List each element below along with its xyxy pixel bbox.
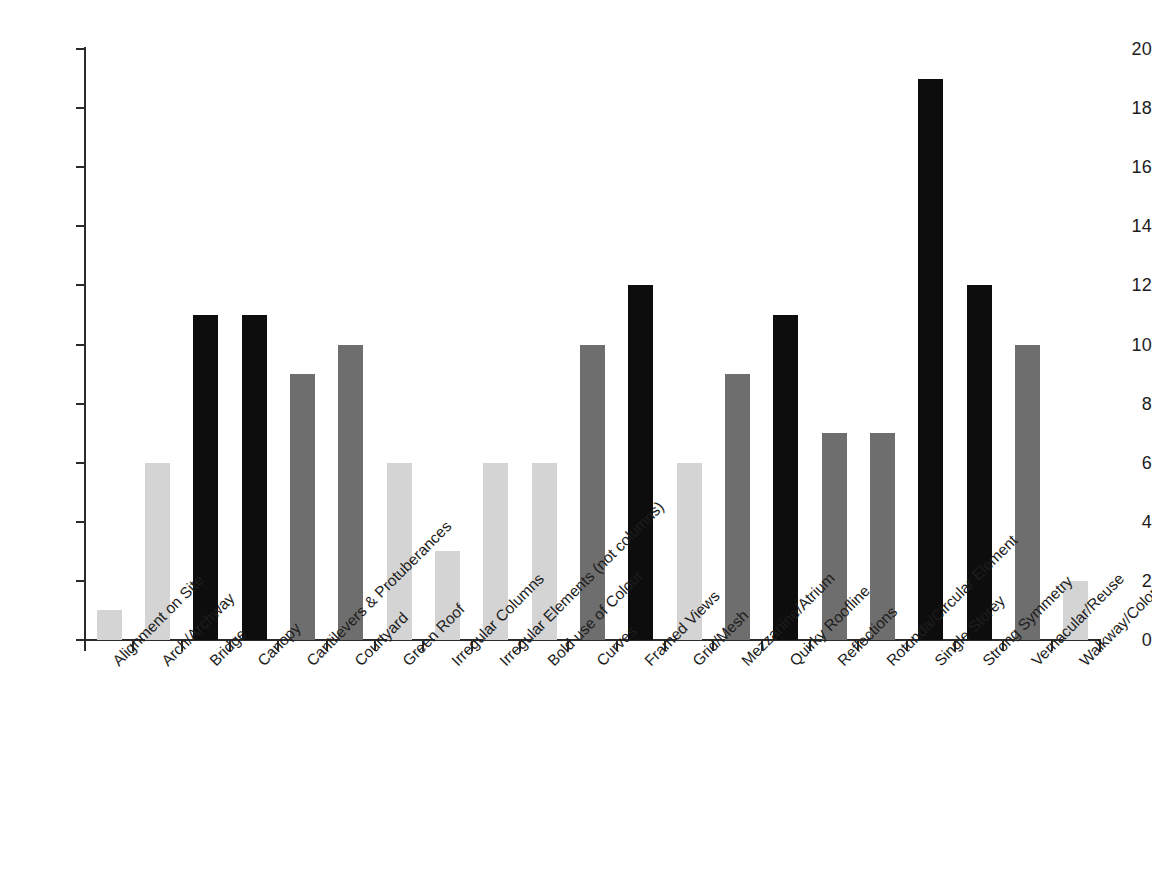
x-axis-label: Arch/Archway	[158, 657, 170, 669]
bar	[918, 79, 943, 640]
y-axis-tick	[76, 344, 85, 346]
bar	[1015, 345, 1040, 641]
bar	[338, 345, 363, 641]
x-axis-label: Grid/Mesh	[689, 657, 701, 669]
x-axis-tick	[84, 641, 86, 651]
x-axis-label: Irregular Elements (not columns)	[496, 657, 508, 669]
x-axis-label: Courtyard	[351, 657, 363, 669]
bar	[97, 610, 122, 640]
x-axis-label: Canopy	[254, 657, 266, 669]
x-axis-label: Bold use of Colour	[544, 657, 556, 669]
y-axis-tick	[76, 580, 85, 582]
x-axis-label: Curves	[593, 657, 605, 669]
bar-chart: 02468101214161820 Alignment on SiteArch/…	[0, 0, 1152, 877]
y-axis-tick	[76, 462, 85, 464]
x-axis-label: Single Storey	[931, 657, 943, 669]
x-axis-label: Rotunda/Circular Element	[883, 657, 895, 669]
bar	[773, 315, 798, 640]
bar	[580, 345, 605, 641]
x-axis-label: Mezzanine/Atrium	[738, 657, 750, 669]
y-axis-tick	[76, 166, 85, 168]
x-axis-label: Quirky Roofline	[786, 657, 798, 669]
x-axis-label: Vernacular/Reuse	[1028, 657, 1040, 669]
bar	[725, 374, 750, 640]
bar	[242, 315, 267, 640]
x-axis-label: Framed Views	[641, 657, 653, 669]
y-axis-tick	[76, 107, 85, 109]
y-axis-tick	[76, 225, 85, 227]
y-axis-tick	[76, 403, 85, 405]
y-axis-tick	[76, 521, 85, 523]
x-axis-label: Green Roof	[399, 657, 411, 669]
x-axis-label: Reflections	[834, 657, 846, 669]
y-axis-tick	[76, 48, 85, 50]
bar	[290, 374, 315, 640]
x-axis-label: Strong Symmetry	[979, 657, 991, 669]
x-axis-label: Walkway/Colonnade/Portico	[1076, 657, 1088, 669]
x-axis-label: Alignment on Site	[109, 657, 121, 669]
bars-container	[85, 49, 1100, 640]
x-axis-label: Irregular Columns	[448, 657, 460, 669]
x-axis-label: Cantilevers & Protuberances	[303, 657, 315, 669]
y-axis-tick	[76, 284, 85, 286]
x-axis-label: Bridge	[206, 657, 218, 669]
